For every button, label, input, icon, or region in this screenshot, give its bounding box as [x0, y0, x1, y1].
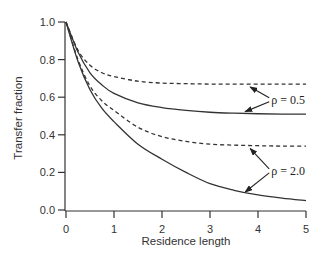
- curves: [66, 22, 306, 201]
- annotation-arrow: [250, 87, 269, 98]
- x-tick-label: 5: [303, 223, 309, 235]
- y-tick-label: 0.6: [40, 91, 55, 103]
- x-tick-label: 3: [207, 223, 213, 235]
- axes: 0.00.20.40.60.81.0012345: [40, 16, 309, 235]
- annotation-label: ρ = 2.0: [271, 164, 305, 178]
- annotations: ρ = 0.5ρ = 2.0: [245, 87, 305, 192]
- x-tick-label: 4: [255, 223, 261, 235]
- x-tick-label: 2: [159, 223, 165, 235]
- series-line-rho-0-5-dashed: [66, 22, 306, 84]
- y-tick-label: 0.8: [40, 54, 55, 66]
- annotation-arrow: [245, 102, 269, 112]
- y-axis-title: Transfer fraction: [12, 76, 24, 159]
- x-tick-label: 0: [63, 223, 69, 235]
- annotation-arrow: [245, 173, 269, 192]
- x-tick-label: 1: [111, 223, 117, 235]
- y-tick-label: 0.0: [40, 204, 55, 216]
- x-axis-title: Residence length: [142, 235, 231, 247]
- y-tick-label: 0.2: [40, 166, 55, 178]
- series-line-rho-2-0-solid: [66, 22, 306, 201]
- chart: 0.00.20.40.60.81.0012345 ρ = 0.5ρ = 2.0 …: [0, 0, 325, 266]
- annotation-arrow: [250, 149, 269, 169]
- annotation-label: ρ = 0.5: [271, 93, 305, 107]
- y-tick-label: 0.4: [40, 129, 55, 141]
- y-tick-label: 1.0: [40, 16, 55, 28]
